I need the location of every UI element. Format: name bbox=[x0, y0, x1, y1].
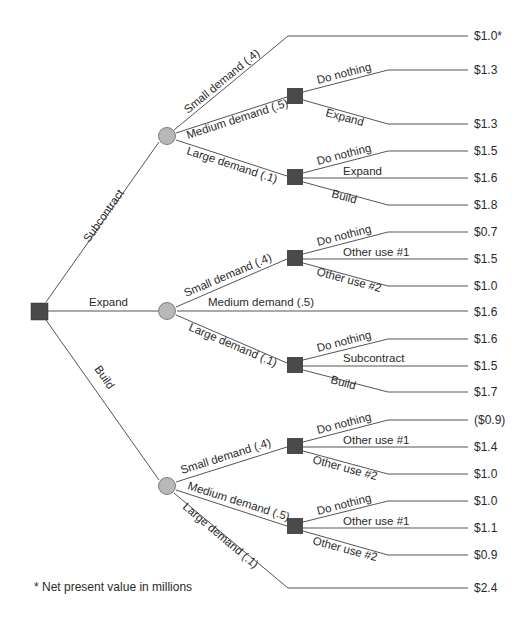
terminal-value: $1.3 bbox=[474, 63, 498, 77]
bld-md-do-nothing-label: Do nothing bbox=[315, 491, 372, 517]
sub-large-demand-label: Large demand (.1) bbox=[185, 144, 279, 185]
exp-sm-do-nothing-label: Do nothing bbox=[315, 222, 372, 248]
terminal-value: $1.0 bbox=[474, 494, 498, 508]
terminal-value: $1.4 bbox=[474, 440, 498, 454]
exp-medium-demand-label: Medium demand (.5) bbox=[208, 296, 314, 308]
expand-chance-node bbox=[159, 303, 176, 320]
terminal-value: $1.0 bbox=[474, 467, 498, 481]
alt-label-expand: Expand bbox=[89, 296, 128, 308]
terminal-value: $1.6 bbox=[474, 305, 498, 319]
terminal-value: $1.5 bbox=[474, 252, 498, 266]
terminal-value: $1.7 bbox=[474, 385, 498, 399]
bld-sm-do-nothing-label: Do nothing bbox=[315, 410, 372, 436]
exp-sm-other-use-2-label: Other use #2 bbox=[315, 265, 382, 294]
sub-lg-do-nothing-label: Do nothing bbox=[315, 141, 372, 167]
alt-label-build: Build bbox=[92, 363, 117, 391]
terminal-value: $1.5 bbox=[474, 359, 498, 373]
build-chance-node bbox=[159, 478, 176, 495]
expand-large-decision-node bbox=[287, 357, 303, 373]
decision-tree-diagram: Subcontract Expand Build Small demand (.… bbox=[0, 0, 528, 624]
alt-label-subcontract: Subcontract bbox=[81, 186, 127, 244]
sub-small-demand-label: Small demand (.4) bbox=[182, 46, 262, 115]
exp-large-demand-label: Large demand (.1) bbox=[187, 321, 279, 369]
bld-md-other-use-1-label: Other use #1 bbox=[343, 515, 409, 527]
terminal-value: $1.0 bbox=[474, 279, 498, 293]
subcontract-medium-decision-node bbox=[287, 88, 303, 104]
terminal-value: $0.9 bbox=[474, 548, 498, 562]
terminal-value: $1.8 bbox=[474, 198, 498, 212]
bld-md-other-use-2-label: Other use #2 bbox=[311, 534, 378, 563]
terminal-value: $1.1 bbox=[474, 521, 498, 535]
root-edges bbox=[46, 142, 159, 480]
terminal-value: $1.3 bbox=[474, 117, 498, 131]
sub-med-do-nothing-label: Do nothing bbox=[315, 60, 372, 86]
subcontract-chance-node bbox=[159, 128, 176, 145]
exp-lg-build-label: Build bbox=[329, 373, 357, 391]
sub-med-expand-label: Expand bbox=[324, 106, 365, 128]
terminal-value: ($0.9) bbox=[474, 413, 505, 427]
exp-lg-subcontract-label: Subcontract bbox=[343, 352, 405, 364]
terminal-value: $1.5 bbox=[474, 144, 498, 158]
bld-sm-other-use-1-label: Other use #1 bbox=[343, 434, 409, 446]
build-small-decision-node bbox=[287, 438, 303, 454]
bld-large-demand-label: Large demand (.1) bbox=[181, 500, 261, 570]
subcontract-large-decision-node bbox=[287, 169, 303, 185]
terminal-values: $1.0* $1.3 $1.3 $1.5 $1.6 $1.8 $0.7 $1.5… bbox=[474, 29, 505, 595]
footnote: * Net present value in millions bbox=[34, 580, 192, 594]
expand-branches bbox=[176, 232, 468, 392]
exp-sm-other-use-1-label: Other use #1 bbox=[343, 246, 409, 258]
exp-small-demand-label: Small demand (.4) bbox=[182, 251, 273, 299]
root-decision-node bbox=[31, 303, 48, 320]
terminal-value: $1.0* bbox=[474, 29, 502, 43]
sub-lg-expand-label: Expand bbox=[343, 165, 382, 177]
terminal-value: $0.7 bbox=[474, 225, 498, 239]
build-medium-decision-node bbox=[287, 518, 303, 534]
expand-small-decision-node bbox=[287, 250, 303, 266]
bld-sm-other-use-2-label: Other use #2 bbox=[311, 453, 378, 482]
terminal-value: $1.6 bbox=[474, 332, 498, 346]
terminal-value: $1.6 bbox=[474, 171, 498, 185]
sub-lg-build-label: Build bbox=[330, 187, 358, 205]
terminal-value: $2.4 bbox=[474, 581, 498, 595]
